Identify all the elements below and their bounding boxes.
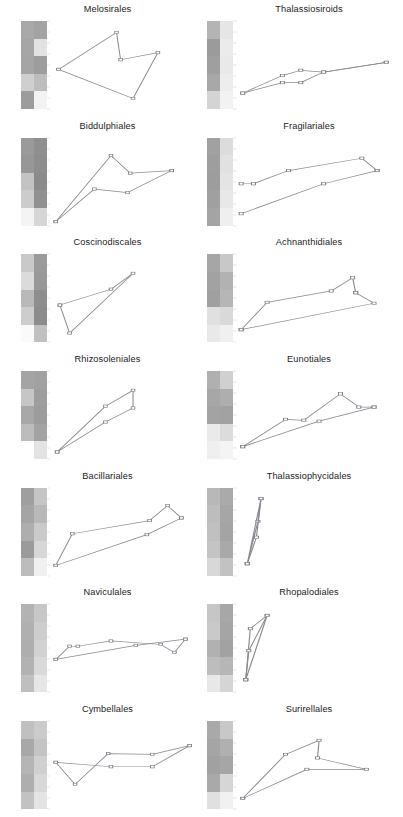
- data-point-marker: [145, 533, 149, 535]
- heatmap-cell: [220, 74, 233, 92]
- trace-line: [241, 278, 356, 330]
- data-point-marker: [254, 536, 258, 538]
- heatmap-cell: [207, 558, 220, 576]
- heatmap-cell: [34, 640, 47, 658]
- trace-plot: [47, 367, 197, 465]
- data-point-marker: [93, 188, 97, 190]
- panel-title: Naviculales: [0, 587, 201, 597]
- heatmap-cell: [34, 657, 47, 675]
- trace-line: [56, 640, 186, 660]
- heatmap-cell: [34, 190, 47, 208]
- heatmap-cell: [21, 505, 34, 523]
- heatmap-cell: [207, 91, 220, 109]
- data-point-marker: [170, 169, 174, 171]
- heatmap-cell: [34, 272, 47, 290]
- trace-line: [246, 616, 267, 680]
- panel-cymbellales: Cymbellales: [0, 700, 201, 817]
- panel-body: [201, 484, 403, 582]
- panel-body: [0, 484, 201, 582]
- heatmap-cell: [220, 91, 233, 109]
- panel-thalassiophycidales: Thalassiophycidales: [201, 467, 403, 584]
- heatmap-cell: [207, 371, 220, 389]
- heatmap-strip: [207, 488, 233, 576]
- trace-line: [56, 640, 186, 660]
- panel-rhizosoleniales: Rhizosoleniales: [0, 350, 201, 467]
- heatmap-cell: [207, 290, 220, 308]
- heatmap-cell: [220, 173, 233, 191]
- panel-title: Coscinodiscales: [0, 237, 201, 247]
- heatmap-cell: [34, 558, 47, 576]
- trace-plot: [233, 17, 399, 115]
- data-point-marker: [360, 157, 364, 159]
- heatmap-cell: [34, 441, 47, 459]
- heatmap-cell: [21, 21, 34, 39]
- data-point-marker: [73, 783, 77, 785]
- heatmap-cell: [34, 622, 47, 640]
- heatmap-cell: [220, 155, 233, 173]
- heatmap-cell: [207, 208, 220, 226]
- data-point-marker: [287, 169, 291, 171]
- heatmap-strip: [21, 21, 47, 109]
- heatmap-cell: [207, 657, 220, 675]
- data-point-marker: [148, 519, 152, 521]
- data-point-marker: [54, 220, 58, 222]
- panel-title: Rhopalodiales: [201, 587, 403, 597]
- heatmap-cell: [21, 371, 34, 389]
- data-point-marker: [68, 332, 72, 334]
- heatmap-cell: [220, 558, 233, 576]
- data-point-marker: [109, 154, 113, 156]
- heatmap-cell: [21, 424, 34, 442]
- heatmap-cell: [220, 254, 233, 272]
- heatmap-cell: [34, 406, 47, 424]
- trace-line: [241, 293, 374, 330]
- trace-line: [59, 32, 158, 98]
- heatmap-cell: [34, 56, 47, 74]
- data-point-marker: [156, 51, 160, 53]
- heatmap-cell: [207, 138, 220, 156]
- heatmap-cell: [21, 138, 34, 156]
- heatmap-cell: [220, 371, 233, 389]
- data-point-marker: [109, 766, 113, 768]
- plot-canvas: [47, 17, 197, 115]
- data-point-marker: [357, 406, 361, 408]
- heatmap-cell: [21, 325, 34, 343]
- data-point-marker: [54, 564, 58, 566]
- heatmap-cell: [21, 488, 34, 506]
- panel-melosirales: Melosirales: [0, 0, 201, 117]
- heatmap-cell: [34, 424, 47, 442]
- trace-plot: [47, 17, 197, 115]
- panel-title: Eunotiales: [201, 354, 403, 364]
- heatmap-cell: [21, 739, 34, 757]
- data-point-marker: [351, 277, 355, 279]
- heatmap-cell: [34, 541, 47, 559]
- heatmap-cell: [207, 307, 220, 325]
- panel-body: [0, 17, 201, 115]
- heatmap-cell: [34, 756, 47, 774]
- data-point-marker: [68, 645, 72, 647]
- data-point-marker: [131, 97, 135, 99]
- data-point-marker: [104, 405, 108, 407]
- data-point-marker: [372, 406, 376, 408]
- plot-canvas: [47, 250, 197, 348]
- panel-body: [0, 250, 201, 348]
- data-point-marker: [239, 212, 243, 214]
- heatmap-cell: [34, 325, 47, 343]
- data-point-marker: [302, 419, 306, 421]
- data-point-marker: [299, 69, 303, 71]
- trace-line: [56, 746, 190, 785]
- data-point-marker: [317, 739, 321, 741]
- data-point-marker: [354, 292, 358, 294]
- heatmap-cell: [207, 406, 220, 424]
- data-point-marker: [173, 652, 177, 654]
- heatmap-strip: [21, 138, 47, 226]
- data-point-marker: [322, 182, 326, 184]
- heatmap-cell: [34, 155, 47, 173]
- heatmap-cell: [207, 424, 220, 442]
- heatmap-cell: [21, 389, 34, 407]
- heatmap-cell: [220, 505, 233, 523]
- heatmap-cell: [21, 155, 34, 173]
- heatmap-cell: [21, 558, 34, 576]
- trace-plot: [233, 600, 399, 698]
- panel-body: [201, 600, 403, 698]
- heatmap-strip: [207, 371, 233, 459]
